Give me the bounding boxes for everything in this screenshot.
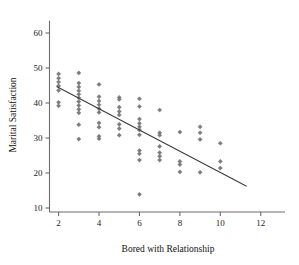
data-point bbox=[218, 141, 222, 145]
data-point bbox=[218, 166, 222, 170]
data-point bbox=[56, 72, 60, 76]
data-points-layer bbox=[56, 71, 222, 197]
data-point bbox=[97, 110, 101, 114]
data-point bbox=[56, 76, 60, 80]
y-axis-group: 102030405060 bbox=[34, 21, 50, 213]
x-axis-group: 24681012 bbox=[50, 212, 286, 228]
data-point bbox=[97, 137, 101, 141]
x-tick-label: 8 bbox=[178, 218, 183, 228]
data-point bbox=[77, 123, 81, 127]
x-tick-label: 10 bbox=[216, 218, 226, 228]
data-point bbox=[77, 81, 81, 85]
x-tick-label: 6 bbox=[137, 218, 142, 228]
data-point bbox=[198, 131, 202, 135]
data-point bbox=[77, 137, 81, 141]
plot-canvas: 102030405060 24681012 Bored with Relatio… bbox=[0, 0, 299, 265]
data-point bbox=[158, 144, 162, 148]
x-tick-label: 2 bbox=[56, 218, 61, 228]
data-point bbox=[77, 100, 81, 104]
data-point bbox=[77, 111, 81, 115]
data-point bbox=[137, 158, 141, 162]
data-point bbox=[198, 170, 202, 174]
x-tick-label: 12 bbox=[256, 218, 265, 228]
data-point bbox=[158, 133, 162, 137]
data-point bbox=[97, 82, 101, 86]
data-point bbox=[158, 154, 162, 158]
data-point bbox=[158, 158, 162, 162]
data-point bbox=[137, 104, 141, 108]
y-tick-label: 50 bbox=[34, 63, 44, 73]
data-point bbox=[97, 99, 101, 103]
y-tick-label: 60 bbox=[34, 28, 44, 38]
data-point bbox=[137, 133, 141, 137]
data-point bbox=[137, 117, 141, 121]
data-point bbox=[178, 170, 182, 174]
x-axis-title: Bored with Relationship bbox=[122, 244, 215, 254]
data-point bbox=[77, 85, 81, 89]
data-point bbox=[97, 103, 101, 107]
data-point bbox=[117, 126, 121, 130]
data-point bbox=[117, 105, 121, 109]
y-axis-title: Marital Satisfaction bbox=[8, 77, 18, 152]
data-point bbox=[137, 152, 141, 156]
y-tick-label: 30 bbox=[34, 133, 44, 143]
data-point bbox=[117, 113, 121, 117]
regression-fit-line bbox=[57, 87, 247, 187]
data-point bbox=[56, 80, 60, 84]
data-point bbox=[77, 71, 81, 75]
data-point bbox=[178, 130, 182, 134]
data-point bbox=[97, 125, 101, 129]
data-point bbox=[158, 108, 162, 112]
data-point bbox=[137, 97, 141, 101]
data-point bbox=[198, 125, 202, 129]
data-point bbox=[77, 103, 81, 107]
data-point bbox=[137, 192, 141, 196]
y-tick-label: 20 bbox=[34, 168, 44, 178]
y-tick-label: 40 bbox=[34, 98, 44, 108]
data-point bbox=[218, 159, 222, 163]
data-point bbox=[198, 137, 202, 141]
data-point bbox=[97, 95, 101, 99]
x-tick-label: 4 bbox=[97, 218, 102, 228]
x-axis-ticks: 24681012 bbox=[56, 212, 265, 228]
y-axis-ticks: 102030405060 bbox=[34, 28, 50, 213]
data-point bbox=[117, 133, 121, 137]
y-tick-label: 10 bbox=[34, 203, 44, 213]
data-point bbox=[97, 121, 101, 125]
data-point bbox=[56, 104, 60, 108]
scatter-plot-figure: 102030405060 24681012 Bored with Relatio… bbox=[0, 0, 299, 265]
data-point bbox=[117, 122, 121, 126]
data-point bbox=[178, 163, 182, 167]
